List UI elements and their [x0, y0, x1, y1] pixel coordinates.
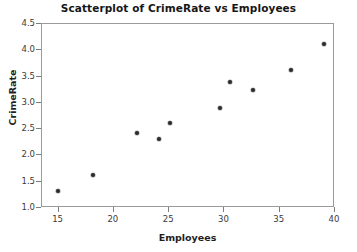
x-tick-mark	[168, 207, 169, 212]
y-tick-mark	[36, 154, 41, 155]
y-tick-mark	[36, 76, 41, 77]
y-tick-mark	[36, 128, 41, 129]
y-axis-label: CrimeRate	[7, 58, 18, 138]
x-tick-mark	[334, 207, 335, 212]
x-tick-label: 35	[264, 215, 294, 224]
chart-title: Scatterplot of CrimeRate vs Employees	[0, 2, 357, 14]
x-tick-mark	[58, 207, 59, 212]
x-tick-mark	[223, 207, 224, 212]
y-tick-mark	[36, 207, 41, 208]
x-tick-label: 20	[98, 215, 128, 224]
x-tick-label: 25	[153, 215, 183, 224]
y-tick-label: 4.5	[5, 19, 35, 28]
x-tick-label: 30	[208, 215, 238, 224]
x-axis-label: Employees	[41, 232, 334, 243]
scatterplot-figure: Scatterplot of CrimeRate vs Employees 1.…	[0, 0, 357, 252]
y-tick-mark	[36, 23, 41, 24]
y-tick-label: 1.5	[5, 177, 35, 186]
y-tick-mark	[36, 49, 41, 50]
x-tick-mark	[279, 207, 280, 212]
y-tick-label: 1.0	[5, 203, 35, 212]
y-tick-mark	[36, 181, 41, 182]
x-tick-mark	[113, 207, 114, 212]
y-tick-label: 4.0	[5, 45, 35, 54]
plot-area-frame	[41, 23, 334, 207]
y-tick-label: 2.0	[5, 150, 35, 159]
y-tick-mark	[36, 102, 41, 103]
x-tick-label: 40	[319, 215, 349, 224]
x-tick-label: 15	[43, 215, 73, 224]
